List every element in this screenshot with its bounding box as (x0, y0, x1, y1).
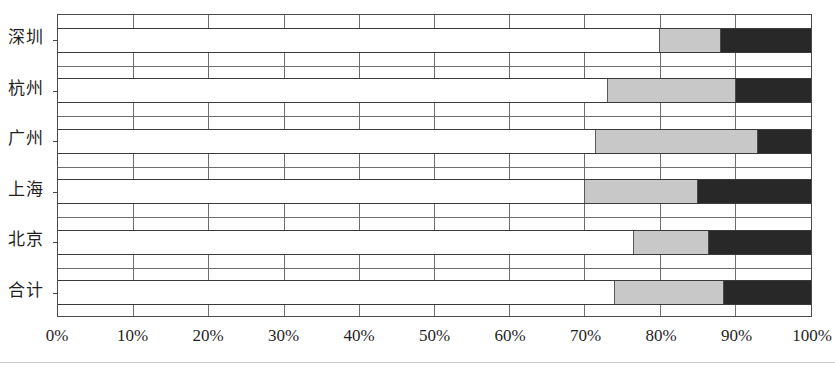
category-separator (58, 116, 811, 117)
bar-合计 (58, 280, 811, 305)
x-axis-tick-labels: 0%10%20%30%40%50%60%70%80%90%100% (0, 325, 835, 353)
gridline-vertical (660, 15, 661, 316)
bar-segment-gray (596, 130, 758, 153)
x-axis-tick-50: 50% (400, 325, 470, 347)
gridline-vertical (735, 15, 736, 316)
gridline-vertical (208, 15, 209, 316)
bar-segment-gray (634, 231, 709, 254)
gridline-vertical (434, 15, 435, 316)
category-separator (58, 268, 811, 269)
bar-杭州 (58, 78, 811, 103)
category-separator (58, 167, 811, 168)
y-axis-label-杭州: 杭州 (0, 79, 52, 99)
bar-北京 (58, 230, 811, 255)
gridline-vertical (284, 15, 285, 316)
bar-segment-black (698, 180, 811, 203)
y-axis-label-上海: 上海 (0, 180, 52, 200)
bar-segment-black (721, 29, 811, 52)
bar-广州 (58, 129, 811, 154)
x-axis-tick-80: 80% (626, 325, 696, 347)
bar-segment-black (724, 281, 811, 304)
stacked-bar-chart: 深圳杭州广州上海北京合计 0%10%20%30%40%50%60%70%80%9… (0, 0, 835, 369)
gridline-vertical (133, 15, 134, 316)
x-axis-tick-30: 30% (249, 325, 319, 347)
bar-segment-gray (660, 29, 720, 52)
plot-area (57, 14, 812, 317)
bar-segment-black (709, 231, 811, 254)
category-separator (58, 217, 811, 218)
bar-segment-white (58, 231, 634, 254)
bar-segment-white (58, 281, 615, 304)
x-axis-tick-10: 10% (98, 325, 168, 347)
bar-segment-gray (585, 180, 698, 203)
bar-segment-black (758, 130, 811, 153)
x-axis-tick-60: 60% (475, 325, 545, 347)
bar-segment-gray (608, 79, 736, 102)
bar-segment-white (58, 130, 596, 153)
bar-segment-white (58, 79, 608, 102)
y-axis-label-合计: 合计 (0, 281, 52, 301)
x-axis-tick-100: 100% (777, 325, 835, 347)
y-axis-label-北京: 北京 (0, 230, 52, 250)
gridline-vertical (584, 15, 585, 316)
bar-segment-white (58, 29, 660, 52)
page-bottom-rule (0, 362, 835, 363)
bar-segment-white (58, 180, 585, 203)
chart-title (0, 0, 835, 5)
bar-segment-black (736, 79, 811, 102)
x-axis-tick-70: 70% (551, 325, 621, 347)
y-axis-category-labels: 深圳杭州广州上海北京合计 (0, 0, 57, 369)
y-axis-label-深圳: 深圳 (0, 28, 52, 48)
x-axis-tick-0: 0% (22, 325, 92, 347)
y-axis-label-广州: 广州 (0, 129, 52, 149)
x-axis-tick-90: 90% (702, 325, 772, 347)
bar-上海 (58, 179, 811, 204)
x-axis-tick-40: 40% (324, 325, 394, 347)
bar-segment-gray (615, 281, 724, 304)
gridline-vertical (359, 15, 360, 316)
gridline-vertical (509, 15, 510, 316)
bar-深圳 (58, 28, 811, 53)
x-axis-tick-20: 20% (173, 325, 243, 347)
category-separator (58, 66, 811, 67)
